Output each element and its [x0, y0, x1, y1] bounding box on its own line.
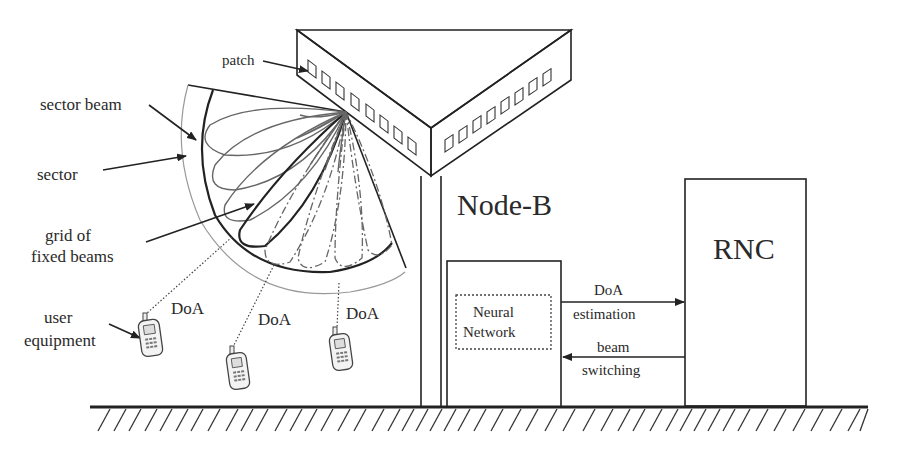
beam-switching-label-1: beam	[597, 339, 630, 355]
ground-hatching	[98, 409, 868, 431]
beam-pattern	[181, 85, 406, 294]
grid-of-fixed-beams-label-1: grid of	[45, 226, 91, 245]
grid-of-fixed-beams-label-2: fixed beams	[31, 247, 114, 266]
label-arrows	[103, 61, 308, 338]
doa-label-1: DoA	[171, 299, 205, 318]
beam-switching-diagram: patch sector beam sector grid of fixed b…	[0, 0, 903, 456]
sector-beam	[202, 90, 392, 272]
user-equipment-1	[138, 313, 164, 357]
neural-network-label-2: Network	[463, 324, 516, 340]
user-equipment-label-1: user	[44, 308, 73, 327]
node-b-label: Node-B	[457, 188, 552, 221]
doa-estimation-label-2: estimation	[573, 306, 636, 322]
sector-beam-label: sector beam	[40, 95, 122, 114]
user-equipment-2	[226, 346, 251, 390]
ground	[90, 407, 868, 431]
rnc-label: RNC	[713, 232, 775, 265]
doa-label-2: DoA	[258, 310, 292, 329]
antenna-mast	[421, 176, 441, 407]
doa-label-3: DoA	[346, 304, 380, 323]
user-equipment-label-2: equipment	[24, 331, 96, 350]
sector-label: sector	[37, 165, 78, 184]
beam-switching-label-2: switching	[582, 362, 641, 378]
doa-lines	[146, 237, 339, 347]
user-equipment-3	[329, 327, 354, 371]
neural-network-label-1: Neural	[473, 304, 514, 320]
text-labels: patch sector beam sector grid of fixed b…	[24, 52, 775, 378]
node-b-antenna	[297, 30, 571, 176]
rnc-box	[685, 179, 806, 406]
doa-estimation-label-1: DoA	[594, 282, 623, 298]
patch-label: patch	[222, 52, 255, 68]
